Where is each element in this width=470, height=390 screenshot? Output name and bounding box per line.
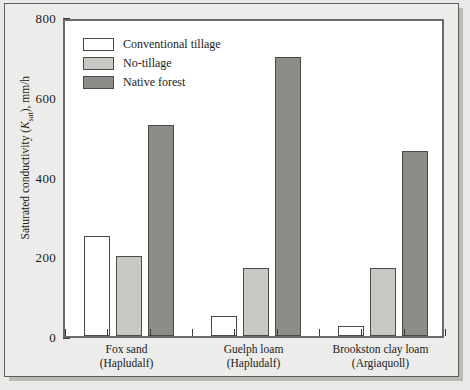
y-axis-tick-label: 0 [49,330,56,346]
legend-swatch-forest [83,76,114,89]
x-axis-tick-mark [445,329,446,336]
bar-conventional-group-2 [211,316,237,336]
x-axis-tick-mark [234,329,235,336]
y-axis-tick-label: 200 [36,250,56,266]
legend-swatch-notillage [83,57,114,70]
bar-notillage-group-2 [243,268,269,336]
x-axis-tick-mark [192,329,193,336]
bar-forest-group-2 [275,57,301,336]
y-axis-tick-label: 800 [36,11,56,27]
x-axis-group-label: Brookston clay loam(Argiaquoll) [333,342,429,370]
x-axis-group-label-line: Fox sand [100,342,154,356]
x-axis-group-labels: Fox sand(Hapludalf)Guelph loam(Hapludalf… [63,342,444,378]
figure-shadow-right [459,8,463,380]
bar-conventional-group-1 [84,236,110,336]
legend-item-conventional: Conventional tillage [83,35,221,54]
x-axis-group-label: Guelph loam(Hapludalf) [224,342,284,370]
bar-forest-group-1 [148,125,174,336]
x-axis-tick-mark [361,329,362,336]
bar-notillage-group-3 [370,268,396,336]
bar-notillage-group-1 [116,256,142,336]
y-axis-title: Saturated conductivity (Ksat), mm/h [19,38,34,278]
x-axis-tick-mark [404,329,405,336]
x-axis-tick-mark [107,329,108,336]
x-axis-tick-mark [150,329,151,336]
legend-label-conventional: Conventional tillage [123,37,221,52]
x-axis-group-label-line: (Hapludalf) [224,356,284,370]
bar-conventional-group-3 [338,326,364,336]
chart-legend: Conventional tillageNo-tillageNative for… [83,35,221,92]
x-axis-tick-mark [319,329,320,336]
x-axis-group-label-line: (Argiaquoll) [333,356,429,370]
x-axis-tick-mark [277,329,278,336]
y-axis-tick-label: 400 [36,171,56,187]
plot-area: Conventional tillageNo-tillageNative for… [63,19,444,338]
y-axis-tick-label: 600 [36,91,56,107]
x-axis-group-label: Fox sand(Hapludalf) [100,342,154,370]
bar-forest-group-3 [402,151,428,336]
legend-label-notillage: No-tillage [123,56,172,71]
legend-label-forest: Native forest [123,75,185,90]
legend-item-forest: Native forest [83,73,221,92]
x-axis-group-label-line: Guelph loam [224,342,284,356]
plot-inner: Conventional tillageNo-tillageNative for… [65,21,442,336]
legend-item-notillage: No-tillage [83,54,221,73]
x-axis-tick-mark [65,329,66,336]
legend-swatch-conventional [83,38,114,51]
figure-root: 0200400600800 Saturated conductivity (Ks… [0,0,470,390]
x-axis-group-label-line: Brookston clay loam [333,342,429,356]
x-axis-group-label-line: (Hapludalf) [100,356,154,370]
